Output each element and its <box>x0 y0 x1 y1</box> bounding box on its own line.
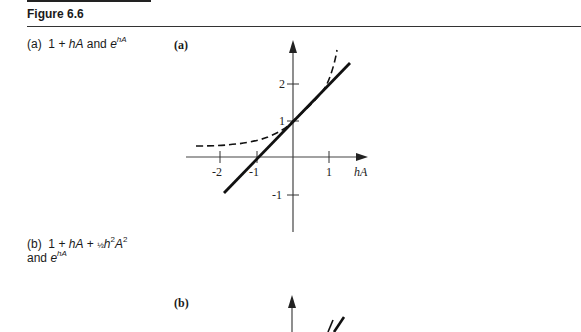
x-tick-label: -2 <box>212 165 222 179</box>
series-exponential <box>196 50 337 146</box>
x-axis-arrow-icon <box>356 153 368 161</box>
y-tick-label: -1 <box>272 188 282 202</box>
y-tick-label: 2 <box>279 77 285 91</box>
chart-canvas: -2 -1 1 2 1 -1 hA <box>0 0 581 332</box>
series-b-dashed <box>328 320 333 332</box>
panel-a-axes: -2 -1 1 2 1 -1 hA <box>186 40 368 232</box>
y-axis-arrow-icon <box>289 40 297 53</box>
y-axis-b-arrow-icon <box>288 295 296 308</box>
x-tick-label: 1 <box>326 165 332 179</box>
x-axis-label: hA <box>354 165 368 179</box>
panel-b-axes <box>288 295 344 332</box>
y-tick-label: 1 <box>279 114 285 128</box>
series-b-solid <box>334 317 344 332</box>
